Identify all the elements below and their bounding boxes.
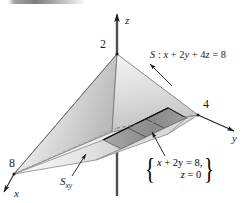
region-sxy-subscript: xy	[66, 181, 73, 190]
plane-equation-equals: = 8	[210, 49, 226, 60]
intercept-dot-z	[116, 53, 119, 56]
base-system-label: { x + 2y = 8, z = 0 }	[143, 157, 216, 181]
axis-label-y: y	[232, 133, 237, 144]
plane-equation-plus1: + 2	[168, 49, 184, 60]
brace-open: {	[145, 157, 155, 180]
axis-label-z: z	[125, 15, 129, 26]
plane-diagram-figure: z y x 2 4 8 S : x + 2y + 4z = 8 Sxy { x …	[0, 0, 251, 203]
base-system-line-2-rest: = 0	[185, 169, 201, 180]
base-system-line-1: x + 2y = 8,	[157, 157, 202, 169]
intercept-dot-y	[197, 114, 200, 117]
intercept-label-y: 4	[203, 98, 209, 110]
plane-equation-label: S : x + 2y + 4z = 8	[150, 50, 226, 61]
intercept-dot-x	[13, 173, 16, 176]
base-system-line-1-rest: + 2y = 8,	[162, 157, 203, 168]
axis-label-x: x	[14, 188, 19, 199]
region-sxy-label: Sxy	[60, 176, 72, 190]
base-system-line-2: z = 0	[157, 169, 202, 181]
brace-content: x + 2y = 8, z = 0	[157, 157, 202, 181]
intercept-label-x: 8	[9, 157, 15, 169]
intercept-label-z: 2	[100, 38, 106, 50]
plane-equation-plus2: + 4	[189, 49, 205, 60]
brace-close: }	[204, 157, 214, 180]
